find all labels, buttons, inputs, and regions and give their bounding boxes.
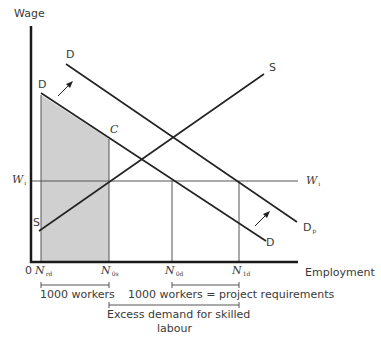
range-label-2: 1000 workers = project requirements	[128, 288, 334, 301]
supply-start-label: S	[33, 216, 40, 229]
demand-shifted-start-label: D	[66, 48, 74, 61]
x-tick-n-0s: N0s	[101, 264, 119, 277]
demand-shifted-end-label: Dp	[303, 221, 316, 234]
excess-demand-label-line2: labour	[157, 322, 192, 335]
x-tick-n-0d: N0d	[165, 264, 183, 277]
point-c-label: C	[110, 123, 118, 136]
wage-left-label: Wi	[12, 173, 26, 186]
x-tick-n-rd: Nrd	[35, 264, 52, 277]
demand-original-start-label: D	[38, 78, 46, 91]
supply-end-label: S	[269, 61, 276, 74]
excess-demand-label-line1: Excess demand for skilled	[107, 308, 250, 321]
y-axis-label: Wage	[14, 7, 45, 20]
x-axis-label: Employment	[305, 266, 375, 279]
origin-label: 0	[25, 264, 32, 277]
demand-original-end-label: D	[266, 236, 274, 249]
x-tick-n-1d: N1d	[232, 264, 250, 277]
wage-right-label: Wi	[306, 174, 320, 187]
shaded-area	[41, 95, 109, 262]
range-label-1: 1000 workers	[40, 288, 115, 301]
